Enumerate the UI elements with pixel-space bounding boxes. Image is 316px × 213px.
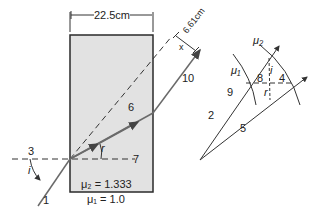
width-dimension: 22.5cm: [70, 9, 153, 32]
vec-label-5: 5: [240, 122, 246, 134]
vec-label-2: 2: [208, 109, 214, 121]
label-6: 6: [128, 101, 134, 113]
vec-label-4: 4: [279, 72, 285, 84]
offset-dimension: x 6.61cm: [173, 6, 207, 53]
vec-label-9: 9: [227, 86, 233, 98]
glass-slab: [70, 35, 153, 192]
label-1: 1: [43, 194, 49, 206]
label-angle-i: i: [28, 164, 31, 176]
label-10: 10: [182, 72, 194, 84]
vec-angle-r: r: [264, 86, 269, 98]
vec-angle-i: i: [270, 64, 273, 76]
vector-diagram: μ₂ μ₁ 8 4 i r 9 2 5: [200, 34, 307, 160]
vec-label-8: 8: [257, 72, 263, 84]
vec-mu1-label: μ₁: [230, 64, 241, 76]
offset-symbol: x: [179, 42, 184, 52]
refraction-diagram: 22.5cm x 6.61cm 3 i 1 6 7 r 10 μ₂ = 1.33…: [0, 0, 316, 213]
width-label: 22.5cm: [94, 9, 130, 21]
angle-i-arc: [30, 159, 40, 180]
vec-mu2-label: μ₂: [252, 34, 264, 46]
mu1-value: μ₁ = 1.0: [87, 193, 125, 205]
label-3: 3: [28, 145, 34, 157]
label-7: 7: [133, 153, 139, 165]
offset-label: 6.61cm: [181, 6, 207, 35]
mu2-value: μ₂ = 1.333: [81, 178, 132, 190]
